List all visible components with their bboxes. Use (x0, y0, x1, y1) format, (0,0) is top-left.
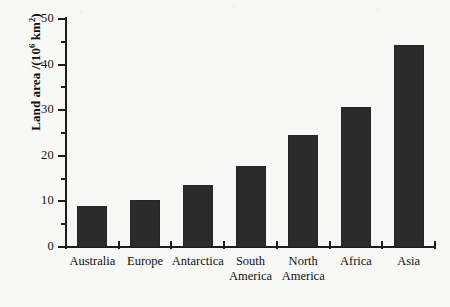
x-tick (329, 241, 331, 249)
x-tick (118, 241, 120, 249)
y-tick-label: 40 (20, 57, 54, 72)
bar (341, 107, 371, 247)
y-tick-label: 50 (20, 11, 54, 26)
y-tick-major (58, 18, 67, 20)
y-axis-title-exponent-1: 6 (27, 44, 37, 48)
x-tick (223, 241, 225, 249)
y-tick-major (58, 109, 67, 111)
y-tick-label: 20 (20, 148, 54, 163)
category-label: Asia (369, 254, 449, 269)
y-tick-major (58, 64, 67, 66)
bar-chart-figure: Land area /(106 km2) 01020304050 Austral… (0, 0, 450, 307)
bar (183, 185, 213, 247)
bar (288, 135, 318, 247)
y-tick-label: 0 (20, 239, 54, 254)
y-tick-major (58, 200, 67, 202)
x-tick (381, 241, 383, 249)
y-tick-label: 30 (20, 102, 54, 117)
x-tick (434, 241, 436, 249)
x-tick (276, 241, 278, 249)
x-tick (170, 241, 172, 249)
y-tick-minor (61, 41, 67, 43)
y-tick-minor (61, 132, 67, 134)
y-tick-minor (61, 223, 67, 225)
x-tick (65, 241, 67, 249)
bar (77, 206, 107, 247)
y-tick-minor (61, 86, 67, 88)
y-tick-label: 10 (20, 193, 54, 208)
y-tick-major (58, 155, 67, 157)
bar (394, 45, 424, 247)
y-tick-minor (61, 178, 67, 180)
bar (236, 166, 266, 247)
bar (130, 200, 160, 247)
